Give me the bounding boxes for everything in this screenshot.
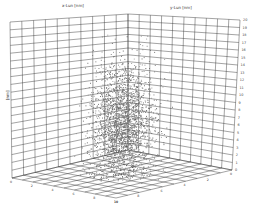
x-axis-label: x-Lun [nm] xyxy=(62,3,84,8)
svg-text:0: 0 xyxy=(10,180,12,184)
svg-text:13: 13 xyxy=(240,71,244,75)
svg-text:4: 4 xyxy=(52,188,54,192)
z-axis-ticks: 01234567891011121314151617181920 xyxy=(235,18,247,172)
svg-text:18: 18 xyxy=(242,33,246,37)
svg-text:6: 6 xyxy=(72,192,74,196)
svg-text:0: 0 xyxy=(235,168,237,172)
svg-text:4: 4 xyxy=(237,138,239,142)
svg-text:8: 8 xyxy=(93,196,95,200)
y-axis-label: y-Lun [nm] xyxy=(170,5,192,10)
svg-text:8: 8 xyxy=(238,108,240,112)
svg-text:11: 11 xyxy=(239,86,243,90)
svg-text:2: 2 xyxy=(236,153,238,157)
svg-text:10: 10 xyxy=(239,93,243,97)
svg-text:2: 2 xyxy=(31,184,33,188)
svg-text:20: 20 xyxy=(243,18,247,22)
svg-text:5: 5 xyxy=(237,131,239,135)
svg-text:12: 12 xyxy=(240,78,244,82)
svg-text:2: 2 xyxy=(207,178,209,182)
svg-text:9: 9 xyxy=(239,101,241,105)
svg-text:0: 0 xyxy=(230,172,232,176)
scatter-3d-plot: 01234567891011121314151617181920 0246810… xyxy=(0,0,255,204)
z-axis-label: [nm] xyxy=(5,90,10,100)
svg-text:17: 17 xyxy=(242,41,246,45)
svg-text:10: 10 xyxy=(114,200,118,204)
svg-text:7: 7 xyxy=(238,116,240,120)
svg-text:3: 3 xyxy=(236,146,238,150)
svg-text:16: 16 xyxy=(241,48,245,52)
svg-text:4: 4 xyxy=(184,183,186,187)
svg-text:6: 6 xyxy=(237,123,239,127)
svg-text:15: 15 xyxy=(241,56,245,60)
svg-text:14: 14 xyxy=(241,63,245,67)
svg-text:6: 6 xyxy=(160,189,162,193)
svg-text:8: 8 xyxy=(137,194,139,198)
svg-text:1: 1 xyxy=(235,161,237,165)
grid-lines xyxy=(10,14,240,198)
svg-text:19: 19 xyxy=(243,26,247,30)
